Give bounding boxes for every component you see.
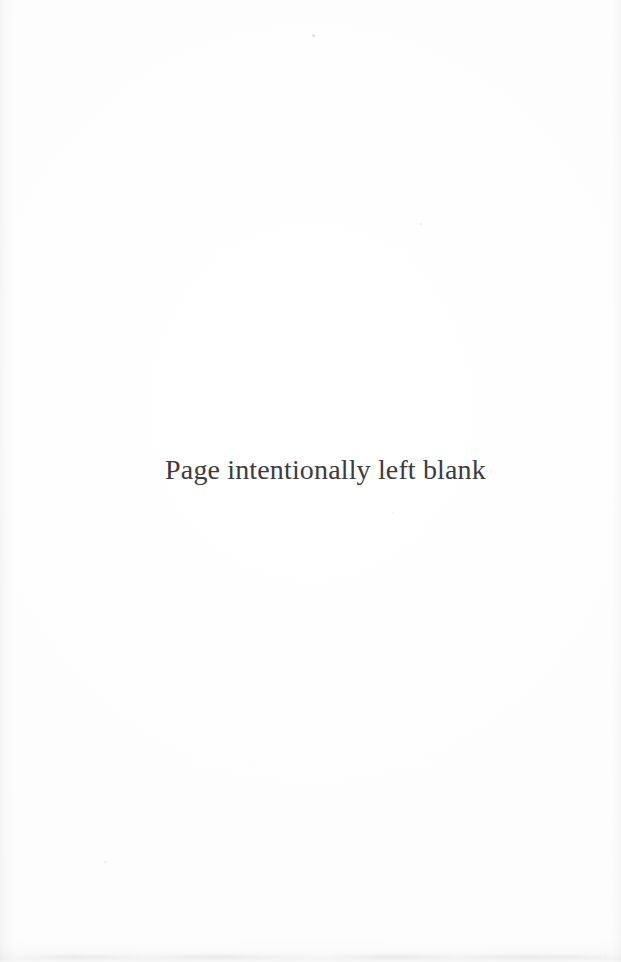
blank-page-notice: Page intentionally left blank [0, 452, 621, 488]
scan-speck-top-icon [312, 34, 315, 37]
scan-smudge-band-icon [0, 940, 621, 962]
scan-speck-mid-icon [420, 223, 422, 225]
scan-speck-lower-left-icon [104, 861, 107, 863]
scanned-page: Page intentionally left blank [0, 0, 621, 962]
scan-speck-lower-mid-icon [392, 512, 394, 514]
blank-page-notice-text: Page intentionally left blank [165, 452, 486, 488]
